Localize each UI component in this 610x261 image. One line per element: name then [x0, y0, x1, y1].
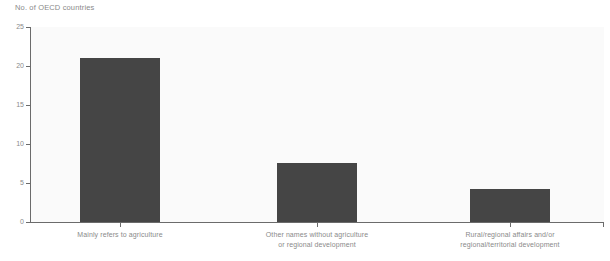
y-axis-tick-label: 5 [8, 179, 24, 187]
y-axis-tick [26, 144, 31, 145]
y-axis-tick [26, 27, 31, 28]
x-axis-category-label: Mainly refers to agriculture [30, 230, 210, 240]
x-axis-tick [603, 223, 604, 227]
bar-chart: No. of OECD countries 0510152025 Mainly … [0, 0, 610, 261]
y-axis-tick [26, 183, 31, 184]
y-axis-tick-label: 0 [8, 218, 24, 226]
x-axis-category-label: Rural/regional affairs and/orregional/te… [420, 230, 600, 249]
y-axis-tick-label: 20 [8, 62, 24, 70]
category-label-line: Other names without agriculture [227, 230, 407, 240]
y-axis-tick-label: 25 [8, 23, 24, 31]
y-axis-title: No. of OECD countries [15, 3, 94, 12]
category-label-line: regional/territorial development [420, 240, 600, 250]
bar [80, 58, 160, 222]
category-label-line: or regional development [227, 240, 407, 250]
bar [277, 163, 357, 222]
category-label-line: Mainly refers to agriculture [30, 230, 210, 240]
bar [470, 189, 550, 222]
x-axis-tick [120, 223, 121, 227]
y-axis-tick [26, 105, 31, 106]
category-label-line: Rural/regional affairs and/or [420, 230, 600, 240]
x-axis-category-label: Other names without agricultureor region… [227, 230, 407, 249]
y-axis-tick [26, 222, 31, 223]
y-axis-line [30, 27, 31, 223]
y-axis-tick-label: 10 [8, 140, 24, 148]
y-axis-tick [26, 66, 31, 67]
y-axis-tick-label: 15 [8, 101, 24, 109]
x-axis-tick [510, 223, 511, 227]
x-axis-tick [317, 223, 318, 227]
